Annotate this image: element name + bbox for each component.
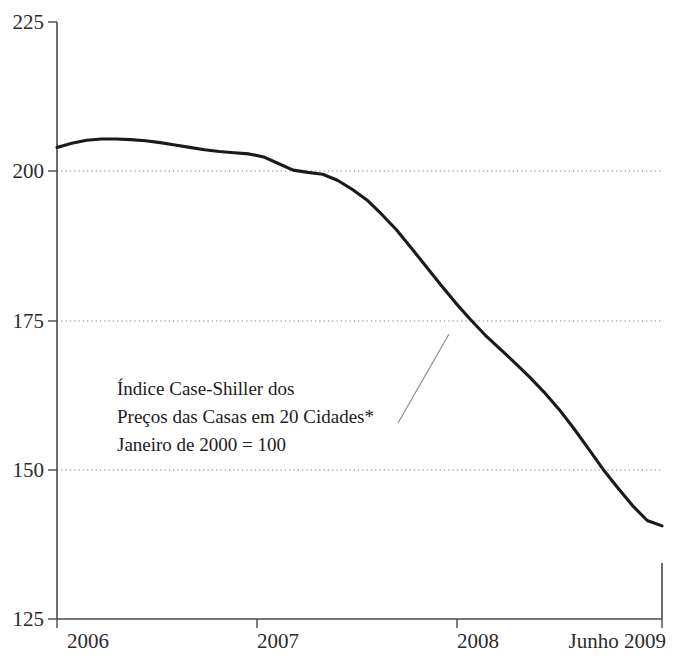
annotation-leader [398,334,449,423]
x-tick-label-junho-2009: Junho 2009 [569,629,666,653]
y-tick-label-225: 225 [13,10,45,34]
x-tick-label-2008: 2008 [457,629,499,653]
x-tick-label-2007: 2007 [257,629,299,653]
y-tick-label-200: 200 [13,159,45,183]
x-tick-marks [57,619,662,628]
annotation-text-block: Índice Case-Shiller dos Preços das Casas… [117,378,374,455]
x-tick-label-2006: 2006 [67,629,109,653]
y-tick-label-150: 150 [13,458,45,482]
annotation-line-3: Janeiro de 2000 = 100 [117,434,286,455]
case-shiller-line-chart: 225 200 175 150 125 2006 2007 2008 Junho… [0,0,676,659]
x-axis-labels: 2006 2007 2008 Junho 2009 [67,629,666,653]
annotation-line-2: Preços das Casas em 20 Cidades* [117,406,374,427]
y-tick-label-125: 125 [13,607,45,631]
y-tick-label-175: 175 [13,309,45,333]
y-axis-labels: 225 200 175 150 125 [13,10,45,631]
y-tick-marks [48,22,57,619]
annotation-line-1: Índice Case-Shiller dos [117,378,294,399]
callout-leader-line [398,334,449,423]
series-group [57,139,662,526]
chart-container: 225 200 175 150 125 2006 2007 2008 Junho… [0,0,676,659]
series-case-shiller-20-city [57,139,662,526]
